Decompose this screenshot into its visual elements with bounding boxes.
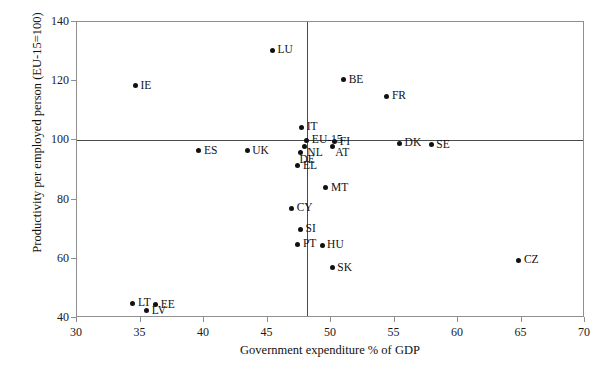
data-point-label: SK — [337, 262, 352, 274]
data-point-label: MT — [331, 182, 348, 194]
data-point-label: HU — [327, 239, 344, 251]
data-point-marker — [130, 301, 135, 306]
data-point-marker — [245, 148, 250, 153]
data-point-label: FR — [392, 90, 406, 102]
x-tick-mark — [521, 317, 522, 322]
data-point-label: CY — [297, 202, 313, 214]
data-point-marker — [295, 163, 300, 168]
data-point-marker — [397, 141, 402, 146]
data-point-label: PT — [303, 238, 316, 250]
data-point-marker — [302, 144, 307, 149]
data-point-label: SE — [436, 139, 449, 151]
x-tick-label: 45 — [247, 326, 287, 338]
data-point-label: LV — [152, 305, 166, 317]
x-axis-label: Government expenditure % of GDP — [76, 344, 584, 357]
data-point-marker — [295, 242, 300, 247]
x-tick-mark — [457, 317, 458, 322]
data-point-label: EL — [303, 160, 317, 172]
plot-area: LUIEBEFRITEU-15FIATNLDEDKSEESUKELMTCYSIP… — [77, 22, 583, 316]
x-tick-label: 65 — [501, 326, 541, 338]
x-tick-label: 55 — [374, 326, 414, 338]
data-point-label: IE — [140, 80, 151, 92]
x-tick-mark — [330, 317, 331, 322]
data-point-marker — [144, 308, 149, 313]
x-tick-label: 60 — [437, 326, 477, 338]
data-point-label: LU — [278, 44, 293, 56]
data-point-marker — [289, 206, 294, 211]
y-tick-label: 60 — [29, 252, 69, 264]
x-tick-mark — [76, 317, 77, 322]
data-point-label: DK — [405, 137, 422, 149]
data-point-marker — [298, 227, 303, 232]
data-point-marker — [133, 83, 138, 88]
x-tick-label: 35 — [120, 326, 160, 338]
data-point-marker — [429, 142, 434, 147]
data-point-marker — [323, 185, 328, 190]
x-tick-label: 40 — [183, 326, 223, 338]
data-point-marker — [299, 125, 304, 130]
data-point-marker — [320, 243, 325, 248]
plot-frame: LUIEBEFRITEU-15FIATNLDEDKSEESUKELMTCYSIP… — [76, 21, 584, 317]
data-point-label: SI — [306, 223, 316, 235]
data-point-label: CZ — [524, 254, 539, 266]
data-point-marker — [330, 265, 335, 270]
x-tick-mark — [140, 317, 141, 322]
x-tick-label: 50 — [310, 326, 350, 338]
x-tick-mark — [267, 317, 268, 322]
x-tick-label: 30 — [56, 326, 96, 338]
data-point-marker — [384, 94, 389, 99]
data-point-label: ES — [204, 145, 217, 157]
data-point-marker — [341, 77, 346, 82]
data-point-marker — [516, 258, 521, 263]
data-point-label: BE — [349, 74, 364, 86]
data-point-marker — [270, 48, 275, 53]
data-point-label: IT — [307, 121, 318, 133]
data-point-label: EU-15 — [312, 134, 343, 146]
scatter-chart-screenshot: Productivity per employed person (EU-15=… — [0, 0, 607, 377]
data-point-label: LT — [138, 297, 151, 309]
x-tick-mark — [394, 317, 395, 322]
data-point-marker — [304, 138, 309, 143]
x-tick-label: 70 — [564, 326, 604, 338]
y-tick-label: 120 — [29, 74, 69, 86]
x-tick-mark — [584, 317, 585, 322]
data-point-label: AT — [335, 147, 349, 159]
data-point-label: UK — [252, 145, 269, 157]
y-tick-label: 80 — [29, 193, 69, 205]
data-point-marker — [196, 148, 201, 153]
y-tick-label: 140 — [29, 15, 69, 27]
data-point-marker — [330, 144, 335, 149]
x-tick-mark — [203, 317, 204, 322]
y-tick-label: 40 — [29, 311, 69, 323]
y-tick-label: 100 — [29, 133, 69, 145]
